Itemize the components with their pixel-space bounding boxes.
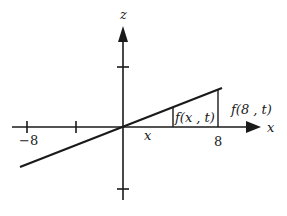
x-tick-label-minus-8: −8: [19, 133, 38, 148]
x-tick-label-8: 8: [214, 134, 222, 149]
f-x-t-label: f(x , t): [174, 110, 215, 125]
z-axis-arrow-icon: [118, 26, 128, 42]
x-axis-label: x: [267, 120, 275, 135]
x-position-label: x: [144, 128, 152, 143]
linear-function-diagram: z x −8 8 x f(x , t) f(8 , t): [0, 0, 287, 216]
x-axis-arrow-icon: [246, 121, 261, 133]
z-axis-label: z: [119, 7, 127, 22]
f-8-t-label: f(8 , t): [230, 102, 272, 117]
